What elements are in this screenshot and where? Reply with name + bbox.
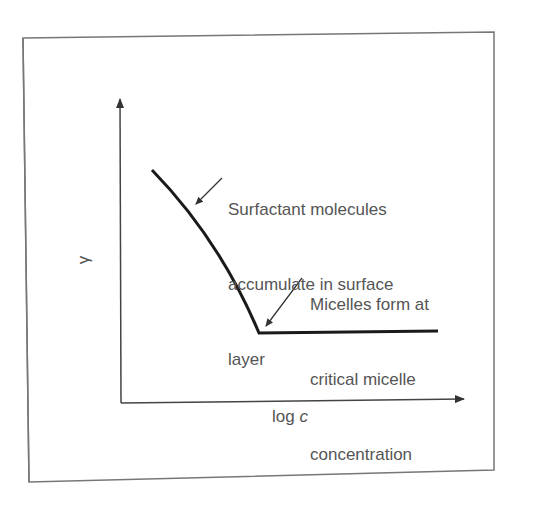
annotation-arrow-1	[196, 178, 222, 204]
y-axis-label: γ	[74, 256, 94, 265]
annotation-line: critical micelle	[310, 367, 429, 392]
annotation-line: concentration	[310, 442, 429, 467]
x-axis-label: log c	[272, 407, 308, 427]
annotation-micelles: Micelles form at critical micelle concen…	[310, 242, 429, 492]
x-axis-label-var: c	[299, 407, 308, 426]
annotation-line: Micelles form at	[310, 292, 429, 317]
annotation-line: Surfactant molecules	[228, 197, 393, 222]
y-axis	[120, 99, 121, 403]
x-axis-label-prefix: log	[272, 407, 299, 426]
